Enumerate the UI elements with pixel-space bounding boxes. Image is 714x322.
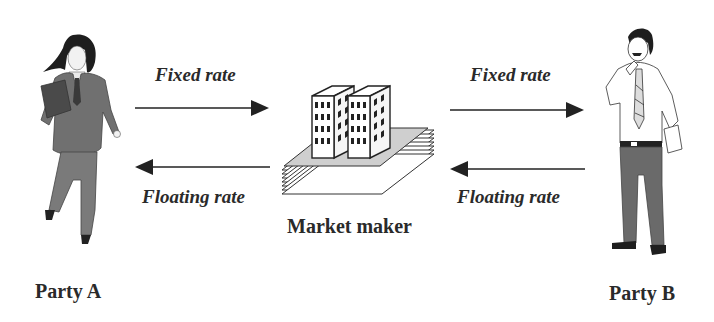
party-b-label: Party B — [609, 282, 675, 305]
party-a-figure-icon — [25, 30, 125, 250]
right-floating-rate-arrow-left-icon — [450, 161, 585, 177]
left-floating-rate-label: Floating rate — [142, 186, 245, 208]
right-fixed-rate-arrow-right-icon — [450, 102, 585, 118]
left-floating-rate-arrow-left-icon — [135, 159, 270, 175]
party-a-label: Party A — [35, 280, 101, 303]
market-maker-label: Market maker — [287, 215, 412, 238]
party-b-figure-icon — [598, 25, 694, 257]
market-maker-buildings-icon — [282, 86, 432, 202]
right-fixed-rate-label: Fixed rate — [470, 64, 551, 86]
left-fixed-rate-arrow-right-icon — [135, 100, 270, 116]
left-fixed-rate-label: Fixed rate — [155, 64, 236, 86]
right-floating-rate-label: Floating rate — [457, 186, 560, 208]
